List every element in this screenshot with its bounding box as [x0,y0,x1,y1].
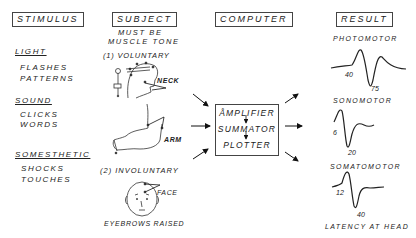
output-arrows [285,94,302,161]
input-arrows [191,94,210,159]
head-voluntary-icon [114,62,166,98]
arm-icon [113,104,164,154]
somatomotor-trace [332,172,384,207]
face-icon [126,182,161,216]
sonomotor-trace [334,110,374,147]
diagram-drawings [0,0,416,238]
photomotor-trace [331,50,406,86]
